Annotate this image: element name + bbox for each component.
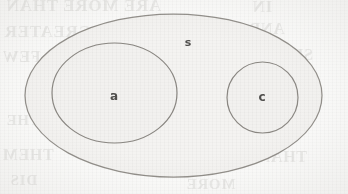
euler-diagram <box>0 0 348 194</box>
label-set-c: c <box>242 91 282 103</box>
scanned-page: ARE MORE THANINTHE GREATERANDA FEWOF THE… <box>0 0 348 194</box>
label-set-a: a <box>94 90 134 102</box>
label-universe-s: s <box>168 37 208 48</box>
